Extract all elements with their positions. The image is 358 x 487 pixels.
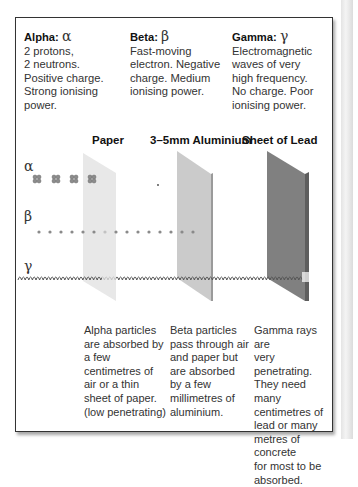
alpha-row-symbol: α: [24, 158, 33, 174]
radiation-penetration-diagram: Alpha: α 2 protons, 2 neutrons. Positive…: [15, 17, 333, 432]
page-edge-strip: [341, 0, 353, 439]
gamma-wave: [18, 277, 302, 280]
stray-dot: [157, 184, 159, 186]
gamma-note: Gamma rays arevery penetrating.They need…: [254, 324, 332, 487]
beta-particles: [37, 230, 194, 233]
alpha-note: Alpha particlesare absorbed bya few cent…: [84, 324, 166, 419]
beta-row-symbol: β: [24, 208, 32, 224]
beta-note: Beta particlespass through airand paper …: [170, 324, 249, 419]
gamma-row-symbol: γ: [24, 258, 32, 274]
aluminium-sheet-edge: [211, 173, 213, 301]
